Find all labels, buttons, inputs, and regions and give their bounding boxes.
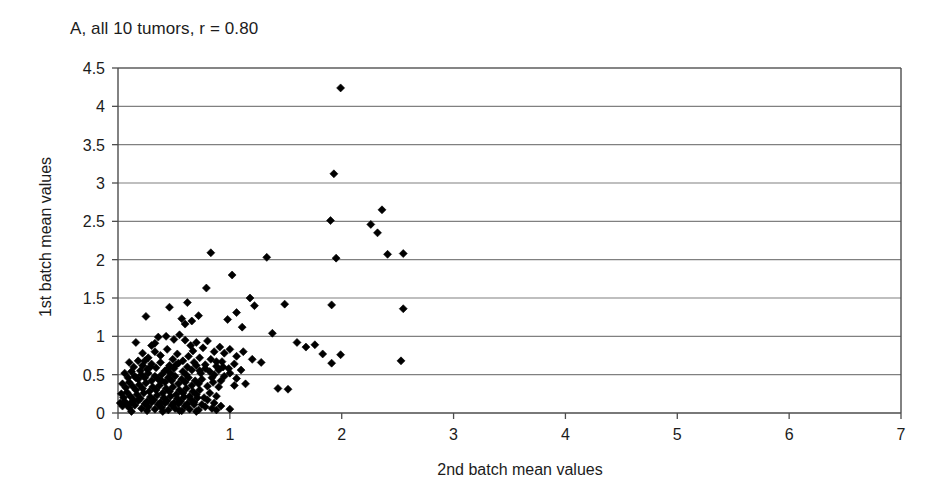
data-point-marker (203, 337, 211, 345)
y-tick-label: 4 (96, 98, 105, 115)
gridlines-group (118, 68, 901, 375)
data-point-marker (378, 206, 386, 214)
x-tick-label: 2 (337, 426, 346, 443)
data-point-marker (281, 300, 289, 308)
data-point-marker (332, 254, 340, 262)
x-tick-label: 1 (225, 426, 234, 443)
y-tick-label: 0 (96, 405, 105, 422)
data-point-marker (337, 351, 345, 359)
x-tick-label: 4 (561, 426, 570, 443)
data-point-marker (139, 349, 147, 357)
x-tick-label: 7 (897, 426, 906, 443)
data-point-marker (199, 344, 207, 352)
data-point-marker (233, 375, 241, 383)
y-axis-ticks-group: 00.511.522.533.544.5 (83, 60, 118, 422)
y-tick-label: 1.5 (83, 290, 105, 307)
data-point-marker (327, 217, 335, 225)
x-tick-label: 0 (114, 426, 123, 443)
data-point-marker (181, 336, 189, 344)
data-point-marker (328, 359, 336, 367)
data-point-marker (226, 405, 234, 413)
x-tick-label: 6 (785, 426, 794, 443)
data-point-marker (399, 305, 407, 313)
y-tick-label: 2 (96, 252, 105, 269)
y-tick-label: 0.5 (83, 367, 105, 384)
data-point-marker (224, 315, 232, 323)
data-point-marker (207, 249, 215, 257)
chart-title: A, all 10 tumors, r = 0.80 (70, 19, 258, 39)
data-point-marker (328, 301, 336, 309)
data-point-marker (399, 250, 407, 258)
data-point-marker (246, 294, 254, 302)
data-point-marker (384, 250, 392, 258)
data-point-marker (228, 271, 236, 279)
data-point-marker (397, 357, 405, 365)
data-point-marker (230, 360, 238, 368)
x-axis-label: 2nd batch mean values (437, 461, 602, 479)
data-point-marker (195, 312, 203, 320)
data-point-marker (337, 84, 345, 92)
data-point-marker (165, 303, 173, 311)
data-point-marker (162, 332, 170, 340)
plot-canvas: 01234567 00.511.522.533.544.5 (0, 0, 944, 503)
data-point-marker (210, 348, 218, 356)
data-point-marker (302, 343, 310, 351)
y-tick-label: 3 (96, 175, 105, 192)
x-axis-ticks-group: 01234567 (114, 413, 906, 443)
data-point-marker (183, 299, 191, 307)
data-point-marker (216, 343, 224, 351)
scatter-plot-figure: A, all 10 tumors, r = 0.80 01234567 00.5… (0, 0, 944, 503)
x-axis-label-wrap: 2nd batch mean values (0, 461, 944, 479)
y-tick-label: 2.5 (83, 213, 105, 230)
y-tick-label: 4.5 (83, 60, 105, 77)
data-point-marker (311, 341, 319, 349)
data-point-marker (176, 331, 184, 339)
y-axis-label: 1st batch mean values (37, 107, 55, 367)
data-point-marker (239, 348, 247, 356)
data-point-marker (257, 358, 265, 366)
data-point-marker (233, 352, 241, 360)
data-point-marker (163, 345, 171, 353)
data-point-marker (132, 338, 140, 346)
data-point-marker (284, 385, 292, 393)
data-point-marker (242, 380, 250, 388)
data-point-marker (374, 229, 382, 237)
x-tick-label: 3 (449, 426, 458, 443)
data-point-marker (233, 309, 241, 317)
data-point-marker (238, 323, 246, 331)
data-point-marker (196, 354, 204, 362)
data-point-marker (237, 366, 245, 374)
x-tick-label: 5 (673, 426, 682, 443)
data-point-marker (293, 338, 301, 346)
data-point-marker (330, 170, 338, 178)
y-tick-label: 3.5 (83, 137, 105, 154)
data-point-marker (230, 381, 238, 389)
data-point-marker (274, 384, 282, 392)
data-point-marker (248, 355, 256, 363)
y-tick-label: 1 (96, 328, 105, 345)
data-point-marker (202, 284, 210, 292)
data-point-marker (142, 312, 150, 320)
data-point-marker (250, 302, 258, 310)
data-points-group (116, 84, 407, 416)
data-point-marker (319, 350, 327, 358)
